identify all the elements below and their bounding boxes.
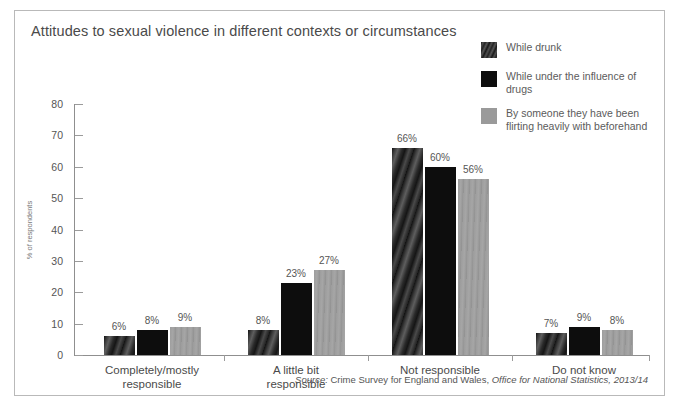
x-axis-category-line2: responsible xyxy=(123,378,182,390)
bar[interactable]: 7% xyxy=(536,333,567,355)
y-axis-tick xyxy=(75,104,83,105)
x-axis-group-tick xyxy=(512,355,513,361)
bar[interactable]: 8% xyxy=(602,330,633,355)
bar[interactable]: 27% xyxy=(314,270,345,355)
y-axis-tick-label: 80 xyxy=(51,98,63,110)
y-axis-tick-label: 20 xyxy=(51,286,63,298)
x-axis-end-tick xyxy=(649,355,650,361)
y-axis-tick xyxy=(75,324,83,325)
bar-group: 6%8%9% xyxy=(104,327,201,355)
bar-fill xyxy=(104,336,135,355)
legend-item-while-drunk: While drunk xyxy=(481,41,661,58)
y-axis-tick-label: 60 xyxy=(51,161,63,173)
y-axis-tick-label: 10 xyxy=(51,318,63,330)
source-note: Source: Crime Survey for England and Wal… xyxy=(295,374,648,385)
bar-fill xyxy=(314,270,345,355)
chart-card: Attitudes to sexual violence in differen… xyxy=(14,10,665,396)
bar[interactable]: 23% xyxy=(281,283,312,355)
bar-fill xyxy=(536,333,567,355)
x-axis-category-label: Completely/mostlyresponsible xyxy=(80,363,224,391)
legend-label-while-under-influence-of-drugs: While under the influence of drugs xyxy=(506,70,661,95)
bar-group: 66%60%56% xyxy=(392,148,489,355)
bar[interactable]: 66% xyxy=(392,148,423,355)
bar-fill xyxy=(281,283,312,355)
y-axis-tick-label: 40 xyxy=(51,224,63,236)
source-publisher: Office for National Statistics, 2013/14 xyxy=(492,374,648,385)
y-axis-tick xyxy=(75,261,83,262)
bar-fill xyxy=(602,330,633,355)
bar[interactable]: 56% xyxy=(458,179,489,355)
bar[interactable]: 8% xyxy=(248,330,279,355)
legend-swatch-solid-black-icon xyxy=(481,71,497,87)
bar-value-label: 7% xyxy=(536,318,567,329)
bar[interactable]: 9% xyxy=(170,327,201,355)
source-prefix: Source: xyxy=(295,374,328,385)
bar[interactable]: 9% xyxy=(569,327,600,355)
y-axis-tick-label: 70 xyxy=(51,129,63,141)
bar-fill xyxy=(170,327,201,355)
y-axis-tick xyxy=(75,135,83,136)
x-axis-line xyxy=(74,355,650,356)
bar-value-label: 8% xyxy=(602,315,633,326)
y-axis-title: % of respondents xyxy=(25,201,34,259)
bar-value-label: 56% xyxy=(458,164,489,175)
y-axis-tick-label: 50 xyxy=(51,192,63,204)
bar-value-label: 66% xyxy=(392,133,423,144)
bar-fill xyxy=(392,148,423,355)
bar-fill xyxy=(458,179,489,355)
y-axis-tick xyxy=(75,230,83,231)
bar-value-label: 27% xyxy=(314,255,345,266)
y-axis-tick xyxy=(75,292,83,293)
bar-value-label: 8% xyxy=(248,315,279,326)
legend-label-line1: While under the influence of drugs xyxy=(506,70,636,95)
bar-value-label: 9% xyxy=(569,312,600,323)
bar-fill xyxy=(569,327,600,355)
bar-fill xyxy=(137,330,168,355)
legend-label-while-drunk: While drunk xyxy=(506,41,561,54)
bar-group: 7%9%8% xyxy=(536,327,633,355)
legend-label-line1: While drunk xyxy=(506,41,561,53)
legend-swatch-hatched-dark-icon xyxy=(481,42,497,58)
bar-value-label: 23% xyxy=(281,268,312,279)
y-axis-tick xyxy=(75,355,83,356)
source-body: Crime Survey for England and Wales, xyxy=(328,374,492,385)
y-axis-tick xyxy=(75,198,83,199)
bar-value-label: 60% xyxy=(425,152,456,163)
bar-group: 8%23%27% xyxy=(248,270,345,355)
y-axis-tick-label: 30 xyxy=(51,255,63,267)
y-axis-tick-label: 0 xyxy=(57,349,63,361)
bar[interactable]: 6% xyxy=(104,336,135,355)
x-axis-group-tick xyxy=(368,355,369,361)
bar-value-label: 9% xyxy=(170,312,201,323)
bar-fill xyxy=(248,330,279,355)
bar[interactable]: 8% xyxy=(137,330,168,355)
bar-fill xyxy=(425,167,456,355)
bar-value-label: 6% xyxy=(104,321,135,332)
y-axis-tick xyxy=(75,167,83,168)
chart-title: Attitudes to sexual violence in differen… xyxy=(31,23,457,39)
legend-item-while-under-influence-of-drugs: While under the influence of drugs xyxy=(481,70,661,95)
bar[interactable]: 60% xyxy=(425,167,456,355)
x-axis-category-line1: Completely/mostly xyxy=(105,364,199,376)
plot-area: % of respondents 01020304050607080 6%8%9… xyxy=(74,104,650,356)
x-axis-group-tick xyxy=(224,355,225,361)
bar-value-label: 8% xyxy=(137,315,168,326)
